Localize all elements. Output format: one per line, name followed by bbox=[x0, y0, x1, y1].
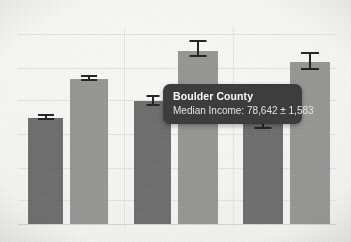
gridline-vertical bbox=[233, 28, 234, 228]
bar-group1-series-b[interactable] bbox=[70, 79, 108, 224]
gridline-vertical bbox=[124, 28, 125, 228]
chart-tooltip: Boulder County Median Income: 78,642 ± 1… bbox=[163, 84, 302, 124]
bar-group2-series-b[interactable] bbox=[178, 51, 218, 224]
gridline-horizontal bbox=[18, 68, 336, 69]
bar-chart-plot-area: Boulder County Median Income: 78,642 ± 1… bbox=[0, 0, 351, 242]
bar-group3-series-a[interactable] bbox=[243, 122, 283, 224]
gridline-horizontal bbox=[18, 200, 336, 201]
gridline-horizontal bbox=[18, 168, 336, 169]
gridline-horizontal bbox=[18, 34, 336, 35]
axis-baseline bbox=[18, 224, 336, 225]
gridline-horizontal bbox=[18, 134, 336, 135]
tooltip-title: Boulder County bbox=[173, 89, 292, 103]
chart-screenshot: Boulder County Median Income: 78,642 ± 1… bbox=[0, 0, 351, 242]
bar-group1-series-a[interactable] bbox=[28, 118, 63, 224]
tooltip-value-row: Median Income: 78,642 ± 1,583 bbox=[173, 104, 292, 118]
